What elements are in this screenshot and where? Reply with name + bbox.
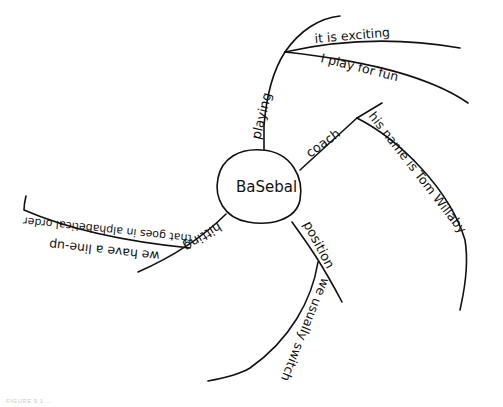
leaf-label-alphabetical-order: that goes in alphabetical order (22, 214, 192, 245)
leaf-line-it-is-exciting (285, 41, 460, 52)
leaf-label-i-play-for-fun: I play for fun (319, 50, 400, 84)
center-node-label: BaSebal (236, 178, 297, 196)
figure-caption: FIGURE 9.1 ... (6, 398, 496, 407)
branch-playing: playing it is exciting I play for fun (248, 16, 468, 150)
branch-hitting: hitting we have a line-up that goes in a… (22, 196, 226, 272)
leaf-label-coach-name: his name is Tom Willaby (366, 109, 471, 237)
branch-position: position we usually switch (208, 218, 342, 383)
branch-label-coach: coach (303, 126, 343, 161)
branch-label-playing: playing (248, 91, 274, 141)
mind-map-canvas: BaSebal playing it is exciting I play fo… (0, 0, 503, 407)
center-node: BaSebal (217, 150, 301, 223)
leaf-label-we-usually-switch: we usually switch (278, 276, 333, 384)
